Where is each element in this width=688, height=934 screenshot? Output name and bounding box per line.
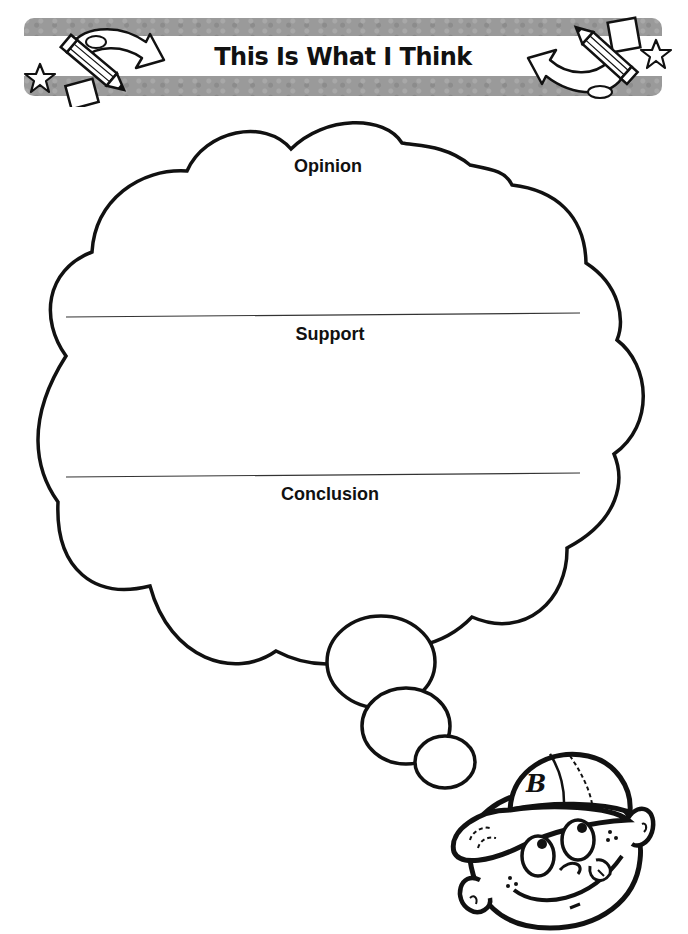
section-label-opinion: Opinion [228, 156, 428, 177]
support-writing-area[interactable] [70, 350, 590, 470]
conclusion-writing-area[interactable] [80, 510, 560, 610]
boy-character-icon: B [440, 740, 660, 934]
cap-letter-b: B [525, 769, 546, 798]
section-label-support: Support [230, 324, 430, 345]
section-label-conclusion: Conclusion [230, 484, 430, 505]
opinion-writing-area[interactable] [90, 185, 570, 310]
